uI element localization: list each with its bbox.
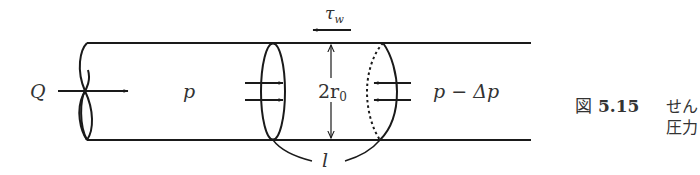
outlet-cross-section-visible	[380, 43, 397, 140]
outlet-cross-section-hidden	[367, 43, 383, 140]
shear-stress-label: τw	[325, 3, 344, 26]
caption-number: 5.15	[598, 96, 639, 116]
inlet-pressure-label: p	[183, 80, 195, 102]
figure-caption: 図 5.15 せん 圧力	[575, 96, 698, 137]
flow-arrow: Q	[30, 80, 128, 102]
wall-shear-stress: τw	[313, 3, 351, 30]
caption-prefix: 図	[575, 96, 592, 116]
length-label: l	[322, 149, 328, 171]
diameter-dimension: 2r0	[316, 45, 348, 138]
inlet-pressure-arrows-icon	[245, 83, 283, 100]
outlet-cross-section	[367, 43, 397, 140]
pipe-diagram: Q p 2r0 p − Δp τw l	[0, 0, 700, 175]
inlet-cross-section	[261, 44, 285, 140]
outlet-pressure-label: p − Δp	[433, 80, 499, 102]
caption-line2: 圧力	[666, 118, 698, 137]
flow-label: Q	[30, 80, 46, 102]
outlet-pressure-arrows-icon	[374, 83, 411, 100]
caption-line1: せん	[666, 97, 698, 116]
